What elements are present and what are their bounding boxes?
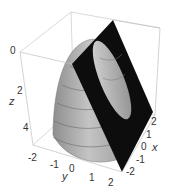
x-tick-neg1: -1 bbox=[136, 155, 145, 165]
y-axis-label: y bbox=[62, 171, 68, 182]
y-tick-neg2: -2 bbox=[28, 153, 37, 163]
y-tick-1: 1 bbox=[89, 173, 95, 183]
z-tick-0: 0 bbox=[10, 46, 16, 56]
z-axis-label: z bbox=[9, 96, 15, 107]
x-tick-1: 1 bbox=[146, 130, 152, 140]
x-axis-label: x bbox=[152, 142, 158, 153]
y-tick-2: 2 bbox=[108, 178, 114, 188]
y-tick-neg1: -1 bbox=[50, 160, 59, 170]
z-tick-4: 4 bbox=[23, 123, 29, 133]
y-tick-0: 0 bbox=[69, 164, 75, 174]
3d-plot bbox=[0, 0, 169, 196]
x-tick-neg2: -2 bbox=[126, 167, 135, 177]
z-tick-2: 2 bbox=[17, 86, 23, 96]
x-tick-2: 2 bbox=[151, 117, 157, 127]
x-tick-0: 0 bbox=[141, 142, 147, 152]
